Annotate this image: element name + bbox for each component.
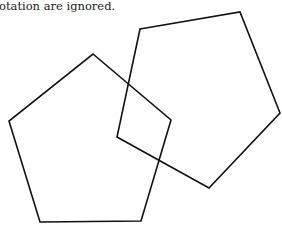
left-pentagon [9,54,171,222]
diagram-canvas: otation are ignored. [0,0,282,230]
overlapping-pentagons-figure [0,0,282,230]
right-pentagon [117,12,280,188]
